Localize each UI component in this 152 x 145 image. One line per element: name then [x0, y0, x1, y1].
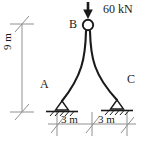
arch-members	[62, 31, 117, 101]
joint-label-a: A	[40, 78, 49, 90]
load-magnitude-label: 60 kN	[103, 3, 133, 15]
load-arrow-head	[83, 10, 93, 20]
dimension-label-span-right: 3 m	[98, 114, 115, 125]
support-a-triangle	[56, 101, 69, 110]
crown-hinge-circle	[83, 20, 93, 30]
dimension-label-span-left: 3 m	[61, 114, 78, 125]
load-arrow-60kn	[83, 2, 93, 19]
joint-label-b: B	[69, 18, 77, 30]
joint-label-c: C	[127, 73, 135, 85]
dimension-label-height: 9 m	[2, 33, 13, 50]
support-c-triangle	[111, 100, 124, 109]
arch-structure-diagram: 60 kN B A C 9 m 3 m 3 m	[0, 0, 152, 145]
arch-member-ab	[62, 31, 86, 101]
vertical-dimension-9m	[10, 16, 34, 120]
arch-member-bc	[90, 31, 117, 100]
